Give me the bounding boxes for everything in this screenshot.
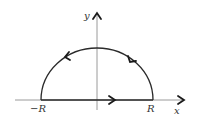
minus-r-label: −R [30,103,46,114]
x-axis-label: x [174,105,180,116]
r-label: R [146,103,155,114]
y-axis-label: y [83,10,90,21]
contour-diagram: y x −R R [0,0,199,123]
